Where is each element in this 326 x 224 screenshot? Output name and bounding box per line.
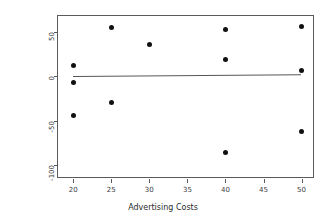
scatter-point — [299, 24, 304, 29]
x-axis-tick-label: 25 — [107, 186, 116, 194]
scatter-point — [299, 68, 304, 73]
x-axis-tick — [187, 179, 188, 183]
x-axis-tick — [73, 179, 74, 183]
plot-area — [58, 16, 313, 177]
scatter-point — [223, 150, 228, 155]
x-axis-tick — [149, 179, 150, 183]
plot-frame: 500-50-10020253035404550 — [57, 15, 314, 178]
scatter-point — [223, 57, 228, 62]
y-axis-title: Residual — [14, 178, 26, 224]
scatter-point — [71, 80, 76, 85]
x-axis-tick-label: 20 — [69, 186, 78, 194]
scatter-point — [71, 63, 76, 68]
x-axis-tick-label: 35 — [183, 186, 192, 194]
y-axis-tick-label: -100 — [48, 165, 56, 181]
x-axis-tick — [302, 179, 303, 183]
scatter-point — [223, 27, 228, 32]
scatter-point — [109, 25, 114, 30]
scatter-point — [109, 100, 114, 105]
x-axis-tick-label: 40 — [221, 186, 230, 194]
x-axis-tick — [264, 179, 265, 183]
y-axis-tick-label: -50 — [48, 121, 56, 132]
scatter-point — [71, 113, 76, 118]
x-axis-tick-label: 30 — [145, 186, 154, 194]
fitted-reference-line — [73, 74, 301, 77]
x-axis-tick-label: 50 — [297, 186, 306, 194]
x-axis-title: Advertising Costs — [0, 203, 326, 212]
scatter-point — [147, 42, 152, 47]
x-axis-tick — [225, 179, 226, 183]
scatter-point — [299, 129, 304, 134]
x-axis-tick-label: 45 — [259, 186, 268, 194]
y-axis-tick-label: 0 — [48, 76, 56, 80]
y-axis-tick-label: 50 — [48, 32, 56, 41]
residual-plot-screenshot: 500-50-10020253035404550 Advertising Cos… — [0, 0, 326, 224]
x-axis-tick — [111, 179, 112, 183]
